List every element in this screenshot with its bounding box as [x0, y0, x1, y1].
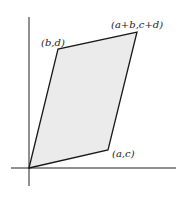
parallelogram-diagram: (a,c) (b,d) (a+b,c+d) — [0, 0, 186, 197]
label-a-c: (a,c) — [112, 148, 135, 159]
label-b-d: (b,d) — [41, 37, 65, 48]
label-a-plus-b-c-plus-d: (a+b,c+d) — [111, 19, 163, 30]
